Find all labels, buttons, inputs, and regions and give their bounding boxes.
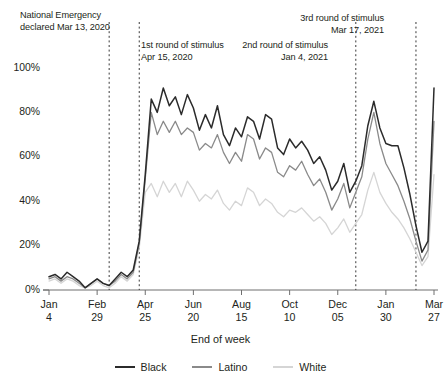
annotation-third-stimulus: 3rd round of stimulus Mar 17, 2021 — [300, 13, 384, 36]
annotation-second-stimulus: 2nd round of stimulus Jan 4, 2021 — [222, 40, 328, 63]
annotation-first-stimulus: 1st round of stimulus Apr 15, 2020 — [141, 40, 224, 63]
chart-legend: BlackLatinoWhite — [0, 361, 441, 373]
axis-group — [43, 290, 438, 295]
x-tick-label: Jan 4 — [29, 298, 69, 323]
y-tick-label: 60% — [6, 150, 40, 161]
legend-swatch-icon — [192, 366, 212, 368]
legend-label: Black — [141, 361, 167, 373]
y-tick-label: 20% — [6, 239, 40, 250]
y-tick-label: 80% — [6, 106, 40, 117]
legend-label: Latino — [218, 361, 247, 373]
x-tick-label: Dec 05 — [318, 298, 358, 323]
x-tick-label: Apr 25 — [125, 298, 165, 323]
y-tick-label: 40% — [6, 195, 40, 206]
x-tick-label: Jan 30 — [366, 298, 406, 323]
legend-swatch-icon — [115, 366, 135, 368]
y-tick-label: 0% — [6, 284, 40, 295]
y-tick-label: 100% — [6, 62, 40, 73]
series-line-white — [49, 172, 434, 287]
x-tick-label: Jun 20 — [173, 298, 213, 323]
series-line-latino — [49, 112, 434, 287]
series-line-black — [49, 88, 434, 288]
annotation-national-emergency: National Emergency declared Mar 13, 2020 — [20, 10, 110, 33]
legend-item-white[interactable]: White — [273, 361, 326, 373]
legend-label: White — [299, 361, 326, 373]
legend-swatch-icon — [273, 366, 293, 368]
x-tick-label: Aug 15 — [222, 298, 262, 323]
x-tick-label: Feb 29 — [77, 298, 117, 323]
x-tick-label: Oct 10 — [270, 298, 310, 323]
x-axis-title: End of week — [0, 333, 441, 345]
x-tick-label: Mar 27 — [414, 298, 448, 323]
legend-item-latino[interactable]: Latino — [192, 361, 247, 373]
series-group — [49, 88, 434, 288]
legend-item-black[interactable]: Black — [115, 361, 167, 373]
